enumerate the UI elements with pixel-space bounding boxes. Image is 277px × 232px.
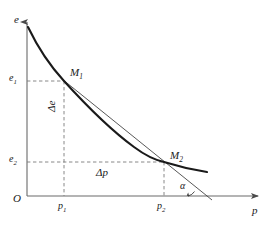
tick-label-p1-sub: 1 (63, 206, 66, 213)
tick-label-p1: p1 (58, 201, 66, 214)
elasticity-diagram: e p O e1 e2 p1 p2 M1 M2 Δe Δp α (0, 0, 277, 232)
delta-p-label: Δp (96, 167, 108, 178)
vertical-axis-label: e (14, 14, 19, 25)
delta-e-label: Δe (46, 101, 57, 112)
origin-label: O (13, 193, 21, 204)
tick-label-e2: e2 (9, 154, 17, 167)
tick-label-e1: e1 (9, 73, 17, 86)
tick-label-p2-sub: 2 (162, 206, 165, 213)
tick-label-e2-sub: 2 (13, 159, 16, 166)
point-label-m1: M1 (70, 67, 83, 81)
diagram-canvas (0, 0, 277, 232)
secant-line (62, 79, 212, 200)
point-label-m1-sub: 1 (79, 72, 83, 81)
horizontal-axis-label: p (252, 205, 258, 216)
tick-label-e1-sub: 1 (13, 78, 16, 85)
angle-arc (188, 192, 195, 197)
point-label-m2-base: M (170, 149, 179, 161)
tick-label-p2: p2 (157, 201, 165, 214)
point-label-m2: M2 (170, 150, 183, 164)
angle-label: α (180, 181, 185, 191)
point-label-m2-sub: 2 (179, 155, 183, 164)
point-label-m1-base: M (70, 66, 79, 78)
